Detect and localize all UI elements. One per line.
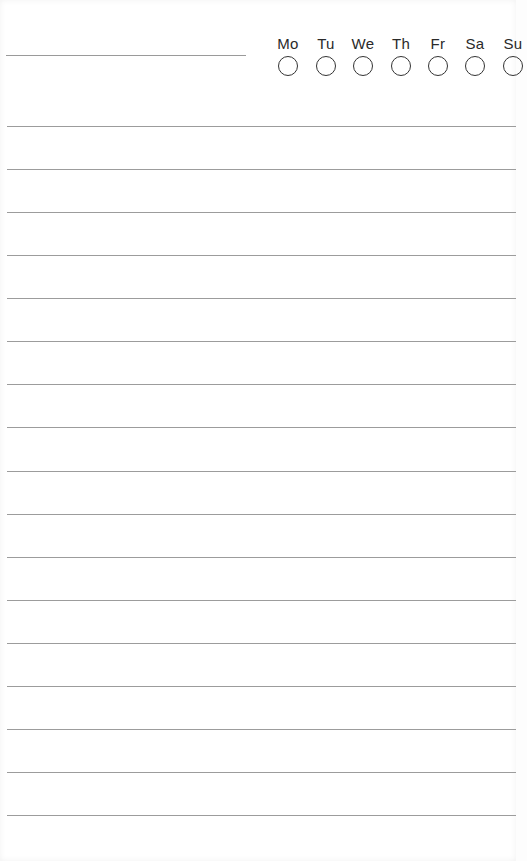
ruled-line[interactable]	[7, 427, 516, 428]
title-line[interactable]	[6, 55, 246, 56]
day-checkbox-we[interactable]	[353, 56, 373, 76]
ruled-line[interactable]	[7, 514, 516, 515]
ruled-line[interactable]	[7, 255, 516, 256]
ruled-line[interactable]	[7, 126, 516, 127]
day-label-su: Su	[494, 35, 527, 52]
ruled-line[interactable]	[7, 557, 516, 558]
day-label-fr: Fr	[419, 35, 457, 52]
ruled-line[interactable]	[7, 298, 516, 299]
day-label-tu: Tu	[307, 35, 345, 52]
day-label-th: Th	[382, 35, 420, 52]
ruled-line[interactable]	[7, 212, 516, 213]
day-checkbox-fr[interactable]	[428, 56, 448, 76]
day-checkbox-th[interactable]	[391, 56, 411, 76]
ruled-line[interactable]	[7, 600, 516, 601]
ruled-line[interactable]	[7, 686, 516, 687]
day-checkbox-su[interactable]	[503, 56, 523, 76]
day-label-mo: Mo	[269, 35, 307, 52]
ruled-line[interactable]	[7, 772, 516, 773]
day-checkbox-tu[interactable]	[316, 56, 336, 76]
ruled-line[interactable]	[7, 815, 516, 816]
ruled-line[interactable]	[7, 384, 516, 385]
day-checkbox-sa[interactable]	[465, 56, 485, 76]
day-label-sa: Sa	[456, 35, 494, 52]
day-label-we: We	[344, 35, 382, 52]
ruled-line[interactable]	[7, 729, 516, 730]
day-checkbox-mo[interactable]	[278, 56, 298, 76]
ruled-line[interactable]	[7, 643, 516, 644]
ruled-line[interactable]	[7, 471, 516, 472]
ruled-line[interactable]	[7, 169, 516, 170]
ruled-line[interactable]	[7, 341, 516, 342]
